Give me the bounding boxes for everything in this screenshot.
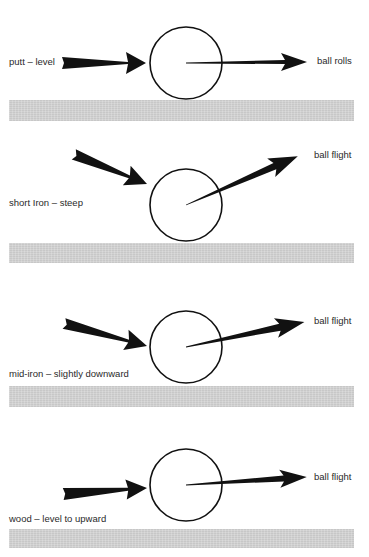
result-label-putt: ball rolls [317,56,352,66]
panel-wood-art [63,449,308,521]
club-label-putt: putt – level [9,57,55,67]
club-path-arrow-icon [62,52,146,74]
result-label-mid-iron: ball flight [314,316,352,326]
result-label-short-iron: ball flight [314,150,352,160]
result-label-wood: ball flight [314,472,352,482]
club-label-mid-iron: mid-iron – slightly downward [9,369,129,379]
club-label-wood: wood – level to upward [9,514,106,524]
club-path-arrow-icon [70,145,151,194]
club-label-short-iron: short Iron – steep [9,198,83,208]
club-path-arrow-icon [63,478,148,504]
panel-putt-art [62,27,307,99]
club-path-arrow-icon [61,313,150,355]
panel-short-iron-art [70,145,302,241]
